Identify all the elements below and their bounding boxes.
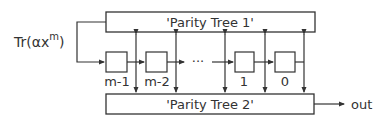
input-label-text: Tr(αx	[13, 34, 49, 50]
input-label-close: )	[59, 34, 64, 50]
parity-tree-2-box: 'Parity Tree 2'	[106, 94, 314, 114]
ellipsis: ···	[192, 54, 204, 69]
register-1: 1	[235, 52, 254, 89]
input-label: Tr(αxm)	[13, 31, 64, 50]
parity-tree-1-label: 'Parity Tree 1'	[166, 15, 254, 30]
input-label-exponent: m	[49, 31, 59, 42]
feedback-wire	[77, 22, 106, 62]
register-label: m-1	[104, 74, 130, 89]
register-m-1: m-1	[104, 52, 130, 89]
register-0: 0	[275, 52, 295, 89]
register-m-2: m-2	[144, 52, 170, 89]
register-label: 1	[240, 74, 248, 89]
parity-tree-2-label: 'Parity Tree 2'	[166, 97, 254, 112]
register-label: 0	[281, 74, 289, 89]
parity-tree-1-box: 'Parity Tree 1'	[106, 12, 315, 32]
register-label: m-2	[144, 74, 170, 89]
output-label: out	[351, 97, 372, 112]
svg-text:Tr(αxm): Tr(αxm)	[13, 31, 64, 50]
lfsr-parity-diagram: 'Parity Tree 1' 'Parity Tree 2' Tr(αxm) …	[0, 0, 383, 121]
